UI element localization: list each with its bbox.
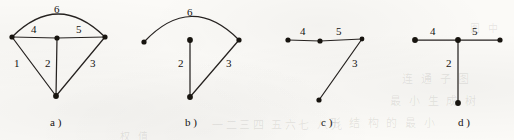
edge-a-3	[56, 37, 105, 96]
edge-c-4	[288, 40, 320, 41]
figure-page: 一二三四 五六七 八九形 结 构 的 最 小连 通 子 图最 小 生 成 树权 …	[0, 0, 514, 140]
caption-b: b )	[185, 117, 197, 128]
node-c-left	[285, 37, 290, 42]
graph-figure-svg	[0, 0, 514, 140]
node-c-middle	[317, 38, 322, 43]
edge-b-3-weight: 3	[226, 58, 232, 69]
nodes-layer	[9, 34, 502, 106]
node-a-bottom	[53, 93, 59, 99]
caption-c: c )	[321, 117, 332, 128]
edge-a-3-weight: 3	[90, 58, 96, 69]
edge-a-6	[12, 14, 105, 37]
edge-c-4-weight: 4	[300, 26, 306, 37]
node-d-left	[412, 37, 418, 43]
node-d-center	[455, 37, 461, 43]
node-a-center	[54, 35, 59, 40]
edge-a-1-weight: 1	[14, 58, 20, 69]
edge-a-4-weight: 4	[31, 24, 37, 35]
caption-a: a )	[50, 117, 61, 128]
node-b-right	[236, 37, 241, 42]
node-d-bottom	[455, 100, 461, 106]
node-c-right	[360, 37, 365, 42]
edge-a-4	[12, 37, 57, 38]
node-c-bottom	[316, 97, 321, 102]
edge-a-6-weight: 6	[54, 4, 60, 15]
edge-a-5	[57, 37, 105, 38]
node-a-right	[102, 34, 107, 39]
edge-c-5-weight: 5	[336, 26, 342, 37]
edge-b-6-weight: 6	[187, 7, 193, 18]
edge-d-4-weight: 4	[430, 26, 436, 37]
node-d-right	[497, 37, 502, 42]
edge-c-5	[320, 39, 362, 41]
node-b-left	[141, 39, 146, 44]
node-a-left	[9, 34, 14, 39]
edge-d-2-weight: 2	[446, 58, 452, 69]
edge-a-5-weight: 5	[76, 24, 82, 35]
edge-c-3-weight: 3	[352, 58, 358, 69]
edge-d-5-weight: 5	[472, 26, 478, 37]
edge-b-2-weight: 2	[178, 58, 184, 69]
node-b-center	[187, 37, 193, 43]
edge-c-3	[319, 39, 362, 100]
edge-a-2-weight: 2	[45, 58, 51, 69]
caption-d: d )	[458, 117, 470, 128]
node-b-bottom	[187, 94, 193, 100]
edge-a-2	[56, 38, 57, 96]
edges-layer	[12, 14, 500, 103]
